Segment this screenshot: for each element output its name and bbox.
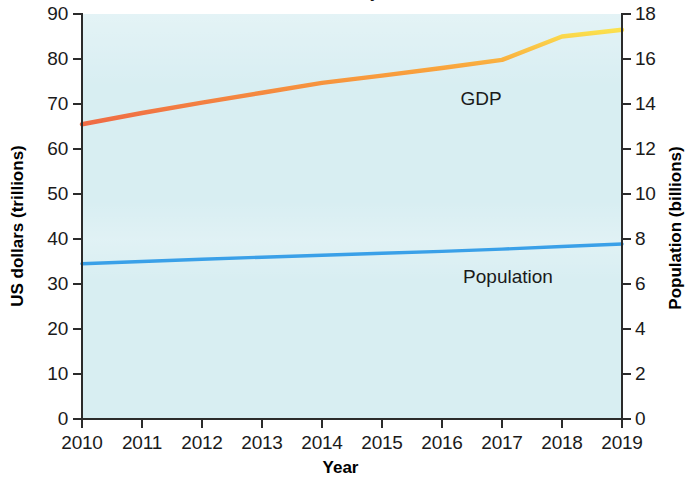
tick-label-x-2012: 2012 bbox=[181, 432, 222, 454]
tick-left-10 bbox=[73, 373, 82, 375]
tick-label-x-2016: 2016 bbox=[421, 432, 462, 454]
tick-label-right-12: 12 bbox=[635, 138, 656, 160]
tick-label-x-2014: 2014 bbox=[301, 432, 342, 454]
tick-label-right-2: 2 bbox=[635, 363, 645, 385]
tick-x-2015 bbox=[381, 419, 383, 428]
tick-right-16 bbox=[622, 58, 631, 60]
bottom-axis-spine bbox=[81, 418, 623, 420]
tick-label-x-2019: 2019 bbox=[601, 432, 642, 454]
tick-label-left-20: 20 bbox=[47, 318, 68, 340]
left-axis-spine bbox=[81, 13, 83, 420]
tick-label-left-40: 40 bbox=[47, 228, 68, 250]
tick-left-60 bbox=[73, 148, 82, 150]
tick-label-x-2011: 2011 bbox=[122, 432, 162, 454]
x-axis-title: Year bbox=[0, 458, 681, 478]
tick-x-2012 bbox=[201, 419, 203, 428]
tick-x-2019 bbox=[621, 419, 623, 428]
tick-label-x-2018: 2018 bbox=[541, 432, 582, 454]
tick-right-8 bbox=[622, 238, 631, 240]
tick-label-right-4: 4 bbox=[635, 318, 645, 340]
right-axis-title: Population (billions) bbox=[666, 98, 686, 358]
tick-left-80 bbox=[73, 58, 82, 60]
tick-label-x-2013: 2013 bbox=[241, 432, 282, 454]
tick-label-right-10: 10 bbox=[635, 183, 656, 205]
series-canvas bbox=[82, 14, 622, 419]
tick-label-left-0: 0 bbox=[58, 408, 68, 430]
plot-area: GDP Population bbox=[82, 14, 622, 419]
tick-x-2010 bbox=[81, 419, 83, 428]
tick-left-50 bbox=[73, 193, 82, 195]
population-series-label: Population bbox=[463, 266, 553, 288]
tick-x-2018 bbox=[561, 419, 563, 428]
cropped-title-fragment: y bbox=[370, 0, 490, 4]
tick-x-2014 bbox=[321, 419, 323, 428]
tick-right-18 bbox=[622, 13, 631, 15]
left-axis-title: US dollars (trillions) bbox=[8, 106, 28, 346]
tick-x-2011 bbox=[141, 419, 143, 428]
tick-right-12 bbox=[622, 148, 631, 150]
tick-x-2016 bbox=[441, 419, 443, 428]
tick-right-14 bbox=[622, 103, 631, 105]
tick-left-70 bbox=[73, 103, 82, 105]
tick-label-left-10: 10 bbox=[47, 363, 68, 385]
tick-left-30 bbox=[73, 283, 82, 285]
tick-left-20 bbox=[73, 328, 82, 330]
gdp-series-label: GDP bbox=[460, 88, 501, 110]
gdp-line bbox=[82, 30, 622, 125]
population-line bbox=[82, 244, 622, 264]
tick-label-right-0: 0 bbox=[635, 408, 645, 430]
tick-right-10 bbox=[622, 193, 631, 195]
tick-x-2013 bbox=[261, 419, 263, 428]
tick-label-x-2010: 2010 bbox=[61, 432, 102, 454]
tick-label-left-70: 70 bbox=[47, 93, 68, 115]
tick-label-left-80: 80 bbox=[47, 48, 68, 70]
tick-label-left-50: 50 bbox=[47, 183, 68, 205]
tick-label-left-90: 90 bbox=[47, 3, 68, 25]
tick-label-right-14: 14 bbox=[635, 93, 656, 115]
right-axis-spine bbox=[621, 13, 623, 420]
tick-label-right-8: 8 bbox=[635, 228, 645, 250]
tick-label-right-6: 6 bbox=[635, 273, 645, 295]
tick-right-0 bbox=[622, 418, 631, 420]
tick-right-2 bbox=[622, 373, 631, 375]
tick-right-4 bbox=[622, 328, 631, 330]
tick-label-left-30: 30 bbox=[47, 273, 68, 295]
tick-label-x-2015: 2015 bbox=[361, 432, 402, 454]
tick-label-right-18: 18 bbox=[635, 3, 656, 25]
tick-x-2017 bbox=[501, 419, 503, 428]
tick-left-90 bbox=[73, 13, 82, 15]
tick-right-6 bbox=[622, 283, 631, 285]
tick-label-x-2017: 2017 bbox=[481, 432, 522, 454]
tick-label-left-60: 60 bbox=[47, 138, 68, 160]
tick-left-40 bbox=[73, 238, 82, 240]
tick-label-right-16: 16 bbox=[635, 48, 656, 70]
